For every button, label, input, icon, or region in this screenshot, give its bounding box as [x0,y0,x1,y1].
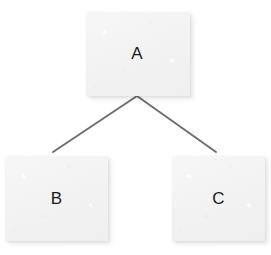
node-b-label: B [51,190,63,207]
node-a-label: A [131,45,143,62]
node-c[interactable]: C [172,156,265,241]
node-a[interactable]: A [86,12,190,96]
edge-a-to-c [137,96,216,152]
node-c-label: C [212,190,224,207]
edge-a-to-b [53,96,137,152]
tree-diagram-canvas: A B C [0,0,271,255]
node-b[interactable]: B [5,156,108,241]
